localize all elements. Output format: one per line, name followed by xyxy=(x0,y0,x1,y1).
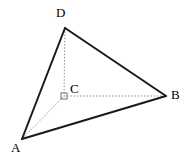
edge-A-B-solid xyxy=(22,96,166,139)
edge-A-D-solid xyxy=(22,28,65,139)
tetrahedron-svg xyxy=(0,0,186,163)
vertex-label-A: A xyxy=(11,141,20,154)
edge-D-B-solid xyxy=(65,28,166,96)
vertex-label-D: D xyxy=(56,6,65,19)
solid-edges-group xyxy=(22,28,166,139)
vertex-label-B: B xyxy=(171,88,180,101)
edge-D-C-hidden xyxy=(64,28,65,96)
geometry-figure: D C B A xyxy=(0,0,186,163)
vertex-label-C: C xyxy=(70,82,79,95)
